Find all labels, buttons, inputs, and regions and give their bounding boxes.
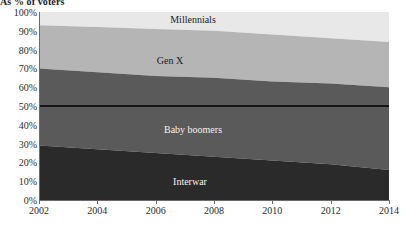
y-tick-90: 90% (3, 25, 37, 36)
y-axis-line (39, 12, 40, 201)
y-tick-80: 80% (3, 44, 37, 55)
y-tick-100: 100% (3, 7, 37, 18)
x-tick-2008: 2008 (204, 205, 224, 216)
stacked-area-svg (39, 12, 389, 200)
y-tick-0: 0% (3, 195, 37, 206)
x-tick-2006: 2006 (146, 205, 166, 216)
chart-root: As % of voters 100% 90% 80% 70% 60% 50% … (0, 0, 407, 229)
x-tick-mark-2010 (272, 200, 273, 204)
y-tick-50: 50% (3, 101, 37, 112)
x-tick-mark-2004 (97, 200, 98, 204)
x-tick-mark-2014 (389, 200, 390, 204)
series-label-millennials: Millennials (170, 14, 216, 25)
x-tick-mark-2002 (39, 200, 40, 204)
y-tick-30: 30% (3, 138, 37, 149)
x-tick-2004: 2004 (87, 205, 107, 216)
x-tick-2002: 2002 (29, 205, 49, 216)
y-tick-20: 20% (3, 157, 37, 168)
y-axis-labels: 100% 90% 80% 70% 60% 50% 40% 30% 20% 10%… (0, 0, 37, 229)
x-tick-mark-2012 (331, 200, 332, 204)
y-tick-60: 60% (3, 82, 37, 93)
y-tick-70: 70% (3, 63, 37, 74)
y-tick-40: 40% (3, 119, 37, 130)
series-label-interwar: Interwar (173, 176, 207, 187)
x-tick-2014: 2014 (379, 205, 399, 216)
plot-area (39, 12, 389, 200)
x-tick-mark-2006 (156, 200, 157, 204)
series-label-gen-x: Gen X (157, 55, 183, 66)
x-tick-2010: 2010 (262, 205, 282, 216)
series-label-baby-boomers: Baby boomers (164, 124, 222, 135)
x-tick-2012: 2012 (321, 205, 341, 216)
x-tick-mark-2008 (214, 200, 215, 204)
y-tick-10: 10% (3, 176, 37, 187)
